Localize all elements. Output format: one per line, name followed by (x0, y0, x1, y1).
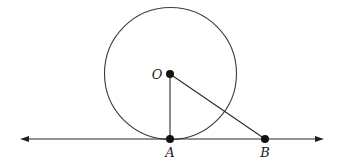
point-o (166, 70, 174, 78)
label-o: O (152, 67, 163, 82)
arrowhead-right-icon (315, 136, 324, 142)
segment-ob (170, 74, 265, 139)
point-a (166, 135, 174, 143)
point-b (261, 135, 269, 143)
geometry-diagram: O A B (0, 0, 344, 168)
label-a: A (164, 145, 174, 160)
label-b: B (259, 145, 270, 160)
arrowhead-left-icon (20, 136, 29, 142)
